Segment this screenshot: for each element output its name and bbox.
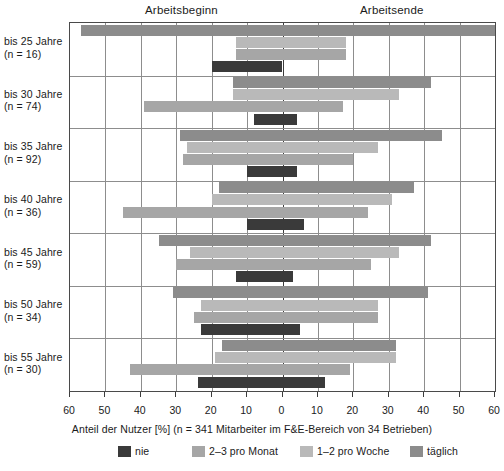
x-tick [69, 392, 70, 397]
label-arbeitsende: Arbeitsende [360, 4, 424, 16]
x-tick [104, 392, 105, 397]
category-label: bis 40 Jahre(n = 36) [4, 193, 70, 218]
bar-t-glich [81, 25, 495, 36]
x-axis-caption: Anteil der Nutzer [%] (n = 341 Mitarbeit… [0, 423, 504, 435]
bar-t-glich [180, 130, 442, 141]
category-label-n: (n = 30) [4, 363, 70, 376]
bar-groups [70, 23, 495, 391]
x-tick [423, 392, 424, 397]
bar-t-glich [222, 340, 396, 351]
bar-2-3-pro-monat [123, 207, 367, 218]
x-tick-label: 40 [408, 404, 438, 416]
bar-2-3-pro-monat [183, 154, 353, 165]
bar-t-glich [173, 287, 428, 298]
bar-group [70, 23, 495, 76]
bar-1-2-pro-woche [236, 37, 346, 48]
x-axis-tick-labels: 6050403020100102030405060 [0, 404, 504, 420]
bar-t-glich [219, 182, 414, 193]
legend-item: täglich [410, 443, 458, 459]
x-tick [282, 392, 283, 397]
category-label-n: (n = 34) [4, 311, 70, 324]
bar-nie [247, 166, 297, 177]
bar-1-2-pro-woche [215, 352, 396, 363]
x-tick-label: 50 [89, 404, 119, 416]
category-label-n: (n = 74) [4, 100, 70, 113]
bar-nie [198, 377, 326, 388]
bar-2-3-pro-monat [176, 259, 371, 270]
legend-swatch-icon [410, 446, 423, 457]
x-tick [175, 392, 176, 397]
bar-nie [236, 271, 293, 282]
category-label-n: (n = 92) [4, 153, 70, 166]
bar-group [70, 338, 495, 391]
x-tick [317, 392, 318, 397]
x-tick [352, 392, 353, 397]
category-axis-labels: bis 25 Jahre(n = 16)bis 30 Jahre(n = 74)… [0, 22, 69, 392]
x-tick-label: 10 [231, 404, 261, 416]
category-label: bis 35 Jahre(n = 92) [4, 140, 70, 165]
category-label-n: (n = 59) [4, 258, 70, 271]
category-label-age: bis 35 Jahre [4, 140, 70, 153]
legend-item: 2–3 pro Monat [192, 443, 278, 459]
x-tick-label: 0 [267, 404, 297, 416]
category-label: bis 30 Jahre(n = 74) [4, 88, 70, 113]
x-axis-ticks [69, 392, 496, 402]
category-label-age: bis 30 Jahre [4, 88, 70, 101]
bar-2-3-pro-monat [130, 364, 350, 375]
legend-label: 2–3 pro Monat [209, 445, 278, 457]
x-tick-label: 60 [54, 404, 84, 416]
bar-nie [201, 324, 300, 335]
legend-label: nie [135, 445, 149, 457]
x-tick [494, 392, 495, 397]
x-tick [211, 392, 212, 397]
label-arbeitsbeginn: Arbeitsbeginn [145, 4, 218, 16]
category-label-age: bis 45 Jahre [4, 246, 70, 259]
x-tick [388, 392, 389, 397]
bar-group [70, 76, 495, 129]
axis-direction-labels: Arbeitsbeginn Arbeitsende [0, 4, 504, 20]
x-tick-label: 50 [444, 404, 474, 416]
category-label-age: bis 50 Jahre [4, 298, 70, 311]
category-label: bis 45 Jahre(n = 59) [4, 246, 70, 271]
x-tick [459, 392, 460, 397]
category-label: bis 50 Jahre(n = 34) [4, 298, 70, 323]
bar-nie [247, 219, 304, 230]
legend-item: nie [118, 443, 149, 459]
legend-swatch-icon [300, 446, 313, 457]
x-tick-label: 30 [160, 404, 190, 416]
bar-1-2-pro-woche [212, 194, 393, 205]
bar-group [70, 233, 495, 286]
bar-nie [212, 61, 283, 72]
legend-label: täglich [427, 445, 458, 457]
x-tick-label: 30 [373, 404, 403, 416]
bar-1-2-pro-woche [201, 300, 378, 311]
bar-2-3-pro-monat [144, 101, 342, 112]
category-label: bis 55 Jahre(n = 30) [4, 351, 70, 376]
bar-t-glich [233, 77, 431, 88]
category-label-age: bis 40 Jahre [4, 193, 70, 206]
x-tick-label: 10 [302, 404, 332, 416]
x-tick [140, 392, 141, 397]
x-tick-label: 20 [196, 404, 226, 416]
legend-label: 1–2 pro Woche [317, 445, 389, 457]
chart-legend: nie2–3 pro Monat1–2 pro Wochetäglich [0, 443, 504, 461]
x-tick-label: 40 [125, 404, 155, 416]
x-tick-label: 20 [337, 404, 367, 416]
bar-1-2-pro-woche [233, 89, 399, 100]
category-label: bis 25 Jahre(n = 16) [4, 35, 70, 60]
bar-group [70, 286, 495, 339]
bar-2-3-pro-monat [236, 49, 346, 60]
bar-nie [254, 114, 297, 125]
bar-group [70, 128, 495, 181]
category-label-age: bis 55 Jahre [4, 351, 70, 364]
bar-t-glich [159, 235, 432, 246]
bar-1-2-pro-woche [190, 247, 399, 258]
bar-group [70, 181, 495, 234]
legend-swatch-icon [118, 446, 131, 457]
category-label-n: (n = 36) [4, 206, 70, 219]
legend-swatch-icon [192, 446, 205, 457]
legend-item: 1–2 pro Woche [300, 443, 389, 459]
x-tick-label: 60 [479, 404, 504, 416]
x-tick [246, 392, 247, 397]
category-label-age: bis 25 Jahre [4, 35, 70, 48]
